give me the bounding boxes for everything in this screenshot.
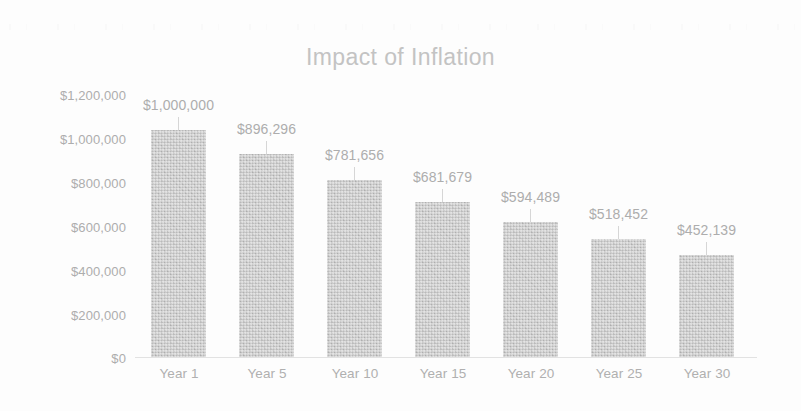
y-tick-label: $600,000 <box>34 220 126 235</box>
y-axis-tick-labels: $1,200,000 $1,000,000 $800,000 $600,000 … <box>30 0 126 411</box>
bar[interactable] <box>503 222 558 357</box>
y-tick-label: $1,000,000 <box>34 132 126 147</box>
bar-slot: $781,656 <box>311 85 399 357</box>
bar-value-label: $896,296 <box>207 121 327 137</box>
bar-slot: $681,679 <box>399 85 487 357</box>
y-tick-label: $200,000 <box>34 308 126 323</box>
bar-slot: $896,296 <box>223 85 311 357</box>
x-tick-label: Year 25 <box>575 366 663 381</box>
bar-value-label: $518,452 <box>559 206 679 222</box>
bar[interactable] <box>679 255 734 357</box>
label-leader-line <box>178 117 179 130</box>
bar[interactable] <box>151 130 206 357</box>
y-tick-label: $1,200,000 <box>34 88 126 103</box>
bar-value-label: $452,139 <box>647 222 767 238</box>
x-tick-label: Year 5 <box>223 366 311 381</box>
label-leader-line <box>354 167 355 180</box>
y-tick-label: $400,000 <box>34 264 126 279</box>
bar[interactable] <box>239 154 294 357</box>
x-tick-label: Year 1 <box>135 366 223 381</box>
bar-value-label: $594,489 <box>471 189 591 205</box>
bar[interactable] <box>327 180 382 357</box>
bar-value-label: $781,656 <box>295 147 415 163</box>
label-leader-line <box>706 242 707 255</box>
bar-chart: Impact of Inflation $1,200,000 $1,000,00… <box>0 0 801 411</box>
bar-slot: $518,452 <box>575 85 663 357</box>
label-leader-line <box>618 226 619 239</box>
bar-series: $1,000,000 $896,296 $781,656 $681,679 <box>135 85 757 357</box>
x-tick-label: Year 20 <box>487 366 575 381</box>
bar-value-label: $681,679 <box>383 169 503 185</box>
bar-slot: $452,139 <box>663 85 751 357</box>
x-tick-label: Year 10 <box>311 366 399 381</box>
bar[interactable] <box>415 202 470 357</box>
x-axis-line <box>135 357 757 358</box>
plot-area: $1,000,000 $896,296 $781,656 $681,679 <box>135 85 757 360</box>
y-tick-label: $800,000 <box>34 176 126 191</box>
x-axis-category-labels: Year 1 Year 5 Year 10 Year 15 Year 20 Ye… <box>135 366 757 388</box>
label-leader-line <box>530 209 531 222</box>
bar[interactable] <box>591 239 646 357</box>
x-tick-label: Year 15 <box>399 366 487 381</box>
x-tick-label: Year 30 <box>663 366 751 381</box>
y-tick-label: $0 <box>34 351 126 366</box>
bar-value-label: $1,000,000 <box>119 97 239 113</box>
label-leader-line <box>266 141 267 154</box>
label-leader-line <box>442 189 443 202</box>
